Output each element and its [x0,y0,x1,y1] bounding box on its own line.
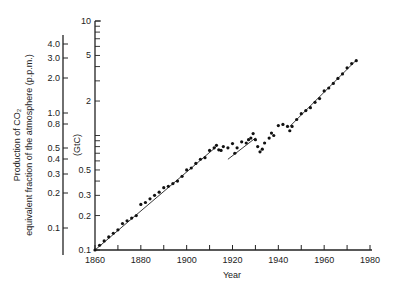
data-point [332,82,335,85]
gtc-tick-label: 0.1 [78,245,91,255]
data-point [345,66,348,69]
data-point [226,146,229,149]
data-point [286,125,289,128]
data-point [355,59,358,62]
data-point [208,149,211,152]
data-point [245,141,248,144]
year-tick-label: 1980 [360,255,380,265]
data-point [219,149,222,152]
year-axis-title: Year [223,270,241,280]
data-point [130,216,133,219]
gtc-tick-label: 5 [86,50,91,60]
data-point [256,145,259,148]
year-axis: 1860188019001920194019601980 [85,245,380,265]
data-point [103,239,106,242]
gtc-tick-label: 0.2 [78,211,91,221]
data-point [290,125,293,128]
data-point [341,72,344,75]
data-point [350,62,353,65]
data-point [261,148,264,151]
gtc-tick-label: 0.3 [78,190,91,200]
data-point [190,166,193,169]
ppm-tick-label: 1.0 [47,108,60,118]
data-point [288,129,291,132]
data-point [318,97,321,100]
data-point [281,123,284,126]
year-tick-label: 1940 [268,255,288,265]
data-point [116,228,119,231]
data-point [277,124,280,127]
ppm-axis: 4.03.02.01.00.80.50.40.30.20.1 [47,35,68,255]
data-point [93,248,96,251]
gtc-tick-label: 2 [86,96,91,106]
data-point [309,106,312,109]
data-point [254,138,257,141]
ppm-tick-label: 0.4 [47,154,60,164]
data-point [263,141,266,144]
ppm-tick-label: 3.0 [47,53,60,63]
year-tick-label: 1920 [222,255,242,265]
gtc-tick-label: 0.5 [78,165,91,175]
ppm-tick-label: 0.3 [47,169,60,179]
data-point [215,144,218,147]
gtc-tick-label: 10 [81,16,91,26]
data-point [158,191,161,194]
gtc-axis-title: (GtC) [72,134,82,156]
ppm-tick-label: 0.1 [47,223,60,233]
data-point [300,112,303,115]
data-point [235,146,238,149]
ppm-tick-label: 0.5 [47,143,60,153]
data-points [93,59,357,251]
data-point [121,222,124,225]
data-point [112,232,115,235]
data-point [233,152,236,155]
ppm-axis-title-line1: Production of CO₂ [12,108,22,181]
data-point [107,235,110,238]
data-point [249,136,252,139]
data-point [153,194,156,197]
data-point [336,77,339,80]
data-point [162,186,165,189]
data-point [270,131,273,134]
data-point [323,89,326,92]
ppm-tick-label: 0.8 [47,119,60,129]
data-point [203,156,206,159]
data-point [268,136,271,139]
ppm-tick-label: 0.2 [47,188,60,198]
data-point [135,214,138,217]
data-point [185,168,188,171]
data-point [176,179,179,182]
co2-production-chart: 4.03.02.01.00.80.50.40.30.20.1 10520.50.… [0,0,402,291]
data-point [295,118,298,121]
data-point [171,182,174,185]
data-point [139,203,142,206]
ppm-tick-label: 2.0 [47,73,60,83]
year-tick-label: 1880 [131,255,151,265]
data-point [167,185,170,188]
data-point [180,175,183,178]
data-point [213,146,216,149]
data-point [240,140,243,143]
data-point [144,201,147,204]
data-point [148,197,151,200]
data-point [125,219,128,222]
data-point [272,134,275,137]
data-point [258,150,261,153]
data-point [252,132,255,135]
year-tick-label: 1960 [314,255,334,265]
trend-lines [95,60,356,250]
data-point [194,162,197,165]
ppm-axis-title-line2: equivalent fraction of the atmosphere (p… [24,54,34,236]
data-point [304,109,307,112]
data-point [231,142,234,145]
data-point [222,145,225,148]
data-point [313,101,316,104]
data-point [327,86,330,89]
year-tick-label: 1860 [85,255,105,265]
data-point [199,158,202,161]
year-tick-label: 1900 [177,255,197,265]
data-point [98,244,101,247]
ppm-tick-label: 4.0 [47,39,60,49]
